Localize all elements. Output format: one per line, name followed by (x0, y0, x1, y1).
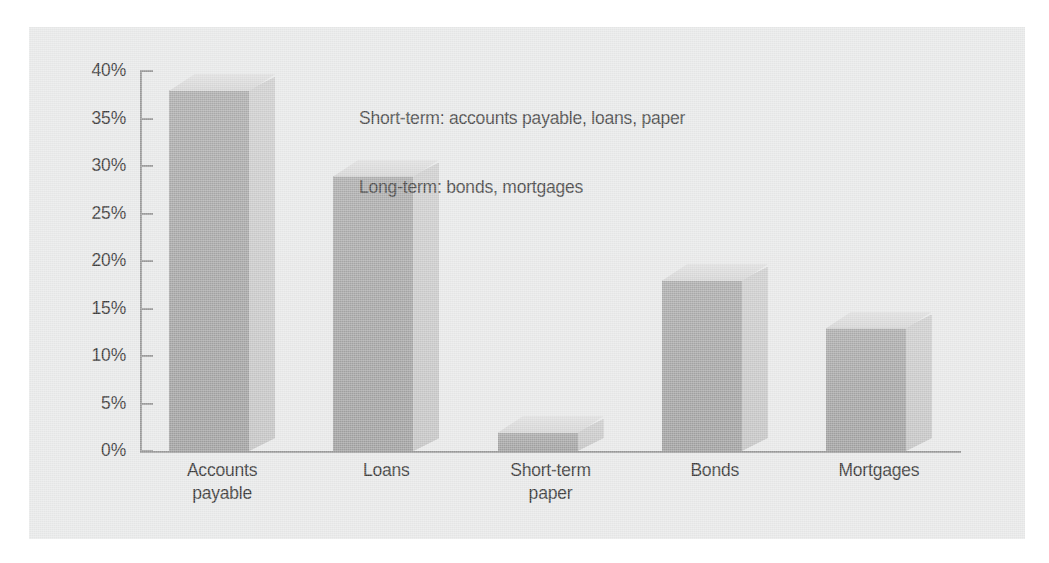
y-axis-tick (140, 355, 153, 357)
bar (498, 432, 578, 451)
bar-front-face (169, 90, 249, 451)
y-axis-tick-label: 25% (29, 203, 126, 224)
y-axis-line (140, 71, 142, 453)
y-axis-tick-label: 35% (29, 108, 126, 129)
x-axis-category-label: Short-termpaper (468, 459, 632, 505)
bar-side-face (906, 315, 932, 452)
bar-side-face (249, 77, 275, 451)
plot-area: 40%35%30%25%20%15%10%5%0% Accountspayabl… (29, 27, 1025, 539)
bar-side-face (742, 267, 768, 451)
y-axis-tick-label: 15% (29, 298, 126, 319)
category-label-line: Loans (304, 459, 468, 482)
x-axis-category-label: Loans (304, 459, 468, 482)
x-axis-category-label: Mortgages (797, 459, 961, 482)
annotation-line-short-term: Short-term: accounts payable, loans, pap… (359, 107, 685, 130)
y-axis-tick (140, 403, 153, 405)
y-axis-tick-label: 20% (29, 250, 126, 271)
category-label-line: Short-term (468, 459, 632, 482)
bar (826, 328, 906, 452)
y-axis-tick-label: 40% (29, 60, 126, 81)
y-axis-tick (140, 70, 153, 72)
chart-annotation: Short-term: accounts payable, loans, pap… (359, 61, 685, 245)
bar (662, 280, 742, 451)
category-label-line: payable (140, 482, 304, 505)
x-axis-category-label: Bonds (633, 459, 797, 482)
bar (169, 90, 249, 451)
x-axis-baseline (140, 451, 961, 453)
category-label-line: Accounts (140, 459, 304, 482)
y-axis-tick (140, 260, 153, 262)
category-label-line: paper (468, 482, 632, 505)
y-axis-tick (140, 213, 153, 215)
category-label-line: Bonds (633, 459, 797, 482)
y-axis-tick-label: 10% (29, 345, 126, 366)
chart-panel: 40%35%30%25%20%15%10%5%0% Accountspayabl… (29, 27, 1025, 539)
bar-front-face (498, 432, 578, 451)
y-axis-tick-label: 30% (29, 155, 126, 176)
y-axis-tick (140, 165, 153, 167)
annotation-line-long-term: Long-term: bonds, mortgages (359, 176, 685, 199)
y-axis-tick (140, 450, 153, 452)
y-axis-tick-label: 0% (29, 440, 126, 461)
bar-front-face (826, 328, 906, 452)
x-axis-category-label: Accountspayable (140, 459, 304, 505)
bar-front-face (662, 280, 742, 451)
y-axis-tick-label: 5% (29, 393, 126, 414)
y-axis-tick (140, 118, 153, 120)
category-label-line: Mortgages (797, 459, 961, 482)
y-axis-tick (140, 308, 153, 310)
